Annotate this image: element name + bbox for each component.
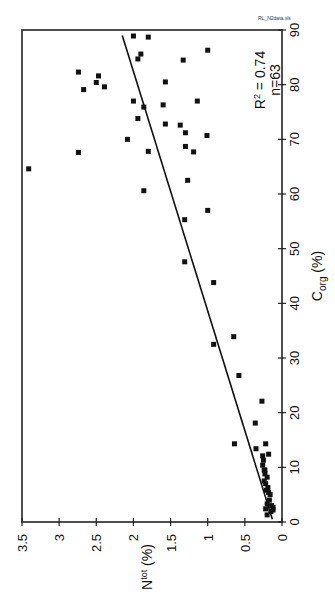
data-point bbox=[185, 178, 190, 183]
data-point bbox=[263, 441, 268, 446]
data-point bbox=[182, 217, 187, 222]
x-tick-label: 10 bbox=[287, 460, 302, 474]
data-point bbox=[260, 463, 265, 468]
data-point bbox=[146, 35, 151, 40]
stats-annotation: R2 = 0.74 n=63 bbox=[252, 51, 283, 110]
data-point bbox=[141, 188, 146, 193]
data-point bbox=[267, 498, 272, 503]
data-point bbox=[253, 421, 258, 426]
data-point bbox=[163, 122, 168, 127]
data-point bbox=[261, 458, 266, 463]
data-point bbox=[81, 87, 86, 92]
data-point bbox=[263, 506, 268, 511]
data-point bbox=[96, 73, 101, 78]
data-point bbox=[265, 485, 270, 490]
data-point bbox=[181, 58, 186, 63]
data-point bbox=[141, 105, 146, 110]
data-point bbox=[236, 373, 241, 378]
data-point bbox=[135, 116, 140, 121]
file-label: RL_N2data.xls bbox=[258, 15, 291, 21]
data-point bbox=[146, 149, 151, 154]
y-axis-title: Ntot (%) bbox=[139, 544, 155, 590]
x-tick-label: 70 bbox=[287, 132, 302, 146]
data-point bbox=[102, 84, 107, 89]
data-point bbox=[269, 503, 274, 508]
data-point bbox=[163, 79, 168, 84]
data-point bbox=[131, 99, 136, 104]
data-point bbox=[161, 102, 166, 107]
y-tick-label: 2.5 bbox=[89, 534, 104, 552]
n-label: n=63 bbox=[267, 64, 283, 96]
scatter-chart: RL_N2data.xls 010203040506070809000.511.… bbox=[0, 0, 335, 599]
x-tick-label: 30 bbox=[287, 351, 302, 365]
y-tick-label: 1 bbox=[201, 534, 216, 541]
x-tick-label: 60 bbox=[287, 187, 302, 201]
data-point bbox=[211, 280, 216, 285]
data-point bbox=[94, 80, 99, 85]
y-tick-label: 1.5 bbox=[164, 534, 179, 552]
y-tick-label: 0.5 bbox=[238, 534, 253, 552]
data-point bbox=[191, 149, 196, 154]
data-point bbox=[259, 399, 264, 404]
y-tick-label: 3 bbox=[52, 534, 67, 541]
data-point bbox=[183, 144, 188, 149]
x-tick-label: 0 bbox=[287, 518, 302, 525]
data-point bbox=[266, 452, 271, 457]
plot-area: 010203040506070809000.511.522.533.5Corg … bbox=[15, 23, 328, 590]
x-tick-label: 20 bbox=[287, 405, 302, 419]
r2-label: R2 = 0.74 bbox=[252, 51, 268, 110]
data-point bbox=[182, 259, 187, 264]
data-point bbox=[26, 166, 31, 171]
data-point bbox=[232, 441, 237, 446]
x-tick-label: 40 bbox=[287, 296, 302, 310]
data-point bbox=[178, 123, 183, 128]
data-point bbox=[231, 334, 236, 339]
x-tick-label: 50 bbox=[287, 241, 302, 255]
data-point bbox=[76, 70, 81, 75]
data-point bbox=[254, 446, 259, 451]
data-point bbox=[138, 52, 143, 57]
data-point bbox=[268, 492, 273, 497]
y-tick-label: 0 bbox=[275, 534, 290, 541]
data-point bbox=[260, 453, 265, 458]
data-point bbox=[204, 133, 209, 138]
data-point bbox=[76, 150, 81, 155]
data-point bbox=[205, 208, 210, 213]
x-axis-title: Corg (%) bbox=[309, 251, 328, 301]
y-tick-label: 2 bbox=[126, 534, 141, 541]
plot-frame bbox=[22, 30, 282, 522]
data-point bbox=[205, 48, 210, 53]
y-tick-label: 3.5 bbox=[15, 534, 30, 552]
data-point bbox=[195, 99, 200, 104]
data-point bbox=[125, 137, 130, 142]
x-tick-label: 90 bbox=[287, 23, 302, 37]
x-tick-label: 80 bbox=[287, 77, 302, 91]
data-point bbox=[211, 342, 216, 347]
data-point bbox=[183, 130, 188, 135]
data-point bbox=[265, 512, 270, 517]
data-point bbox=[135, 56, 140, 61]
data-point bbox=[131, 34, 136, 39]
